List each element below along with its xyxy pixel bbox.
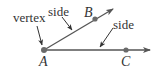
point-b: [92, 16, 97, 21]
point-c-label: C: [121, 54, 131, 69]
point-c: [123, 47, 128, 52]
side-lower-callout-arrow: [100, 28, 113, 47]
side-lower-label: side: [113, 17, 134, 32]
angle-diagram-svg: vertex side side A B C: [0, 0, 160, 72]
point-a: [41, 47, 47, 53]
point-a-label: A: [38, 54, 48, 69]
side-upper-label: side: [48, 4, 69, 19]
angle-diagram: vertex side side A B C: [0, 0, 160, 72]
vertex-callout-arrow: [37, 26, 42, 45]
point-b-label: B: [84, 5, 93, 20]
vertex-label: vertex: [13, 10, 46, 25]
